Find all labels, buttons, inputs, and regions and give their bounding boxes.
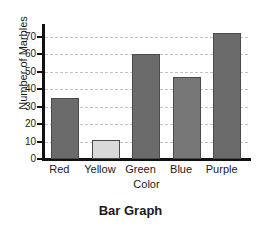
y-axis-tick-label: 40 [14,84,36,94]
bar-red [51,98,79,159]
y-axis-tick [37,158,45,160]
y-axis-tick-label: 70 [14,32,36,42]
bar-purple [213,33,241,159]
y-axis-tick [37,36,45,38]
bar-slot [45,28,86,159]
x-axis-tick-label: Purple [196,163,248,176]
chart-title: Bar Graph [0,203,261,218]
bar-yellow [92,140,120,159]
bar-slot [207,28,248,159]
y-axis-tick [37,106,45,108]
bar-series [45,28,248,159]
bar-slot [86,28,127,159]
y-axis-tick [37,141,45,143]
y-axis-tick-label: 20 [14,119,36,129]
bar-slot [126,28,167,159]
y-axis-tick [37,123,45,125]
y-axis-tick-label: 10 [14,137,36,147]
y-axis-tick-label: 50 [14,67,36,77]
y-axis-tick-labels: 010203040506070 [10,0,36,227]
y-axis-tick [37,88,45,90]
x-axis-tick-labels: RedYellowGreenBluePurple [45,163,248,179]
y-axis-tick-label: 60 [14,49,36,59]
bar-green [132,54,160,159]
bar-slot [167,28,208,159]
y-axis-tick [37,53,45,55]
bar-chart-figure: Number of Marbles 010203040506070 RedYel… [0,0,261,227]
y-axis-tick-label: 30 [14,102,36,112]
x-axis-title: Color [45,178,248,191]
y-axis-tick [37,71,45,73]
bar-blue [173,77,201,159]
